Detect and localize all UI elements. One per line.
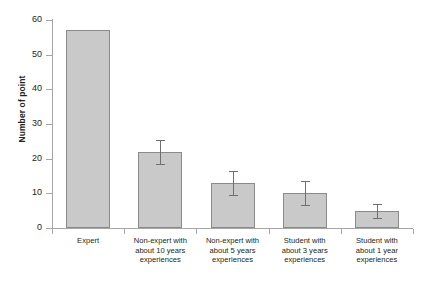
x-category-label-line: about 5 years: [196, 246, 268, 256]
y-tick-label: 60: [32, 14, 42, 24]
x-tick: [196, 229, 197, 234]
error-bar-line: [377, 204, 378, 218]
error-bar-line: [305, 181, 306, 205]
x-tick: [269, 229, 270, 234]
bar-chart: Number of point 0102030405060 ExpertNon-…: [0, 0, 429, 282]
y-tick-label: 50: [32, 49, 42, 59]
error-bar-cap-lower: [156, 164, 165, 165]
x-category-label-line: about 1 year: [341, 246, 413, 256]
x-axis-line: [52, 228, 413, 229]
error-bar-cap-upper: [229, 171, 238, 172]
x-category-label: Non-expert withabout 5 yearsexperiences: [196, 236, 268, 265]
y-tick-label: 0: [37, 222, 42, 232]
x-category-label-line: about 10 years: [124, 246, 196, 256]
bar: [66, 30, 110, 228]
error-bar-cap-lower: [373, 218, 382, 219]
x-category-label: Expert: [52, 236, 124, 246]
x-category-label: Student withabout 1 yearexperiences: [341, 236, 413, 265]
x-category-label-line: Non-expert with: [196, 236, 268, 246]
x-category-label: Student withabout 3 yearsexperiences: [269, 236, 341, 265]
error-bar-cap-lower: [229, 195, 238, 196]
x-category-label-line: Student with: [341, 236, 413, 246]
y-tick-label: 30: [32, 118, 42, 128]
x-category-label: Non-expert withabout 10 yearsexperiences: [124, 236, 196, 265]
x-category-label-line: experiences: [269, 255, 341, 265]
x-tick: [124, 229, 125, 234]
x-tick: [52, 229, 53, 234]
y-tick-label: 10: [32, 187, 42, 197]
x-category-label-line: Expert: [52, 236, 124, 246]
x-category-label-line: Student with: [269, 236, 341, 246]
y-tick-label: 40: [32, 83, 42, 93]
error-bar-line: [160, 140, 161, 164]
error-bar-line: [233, 171, 234, 195]
y-axis-title: Number of point: [17, 49, 27, 169]
x-category-label-line: experiences: [196, 255, 268, 265]
x-tick: [413, 229, 414, 234]
y-tick-label: 20: [32, 153, 42, 163]
x-category-label-line: experiences: [124, 255, 196, 265]
x-category-label-line: Non-expert with: [124, 236, 196, 246]
x-category-label-line: about 3 years: [269, 246, 341, 256]
error-bar-cap-upper: [301, 181, 310, 182]
error-bar-cap-upper: [156, 140, 165, 141]
x-category-label-line: experiences: [341, 255, 413, 265]
error-bar-cap-upper: [373, 204, 382, 205]
x-tick: [341, 229, 342, 234]
error-bar-cap-lower: [301, 205, 310, 206]
